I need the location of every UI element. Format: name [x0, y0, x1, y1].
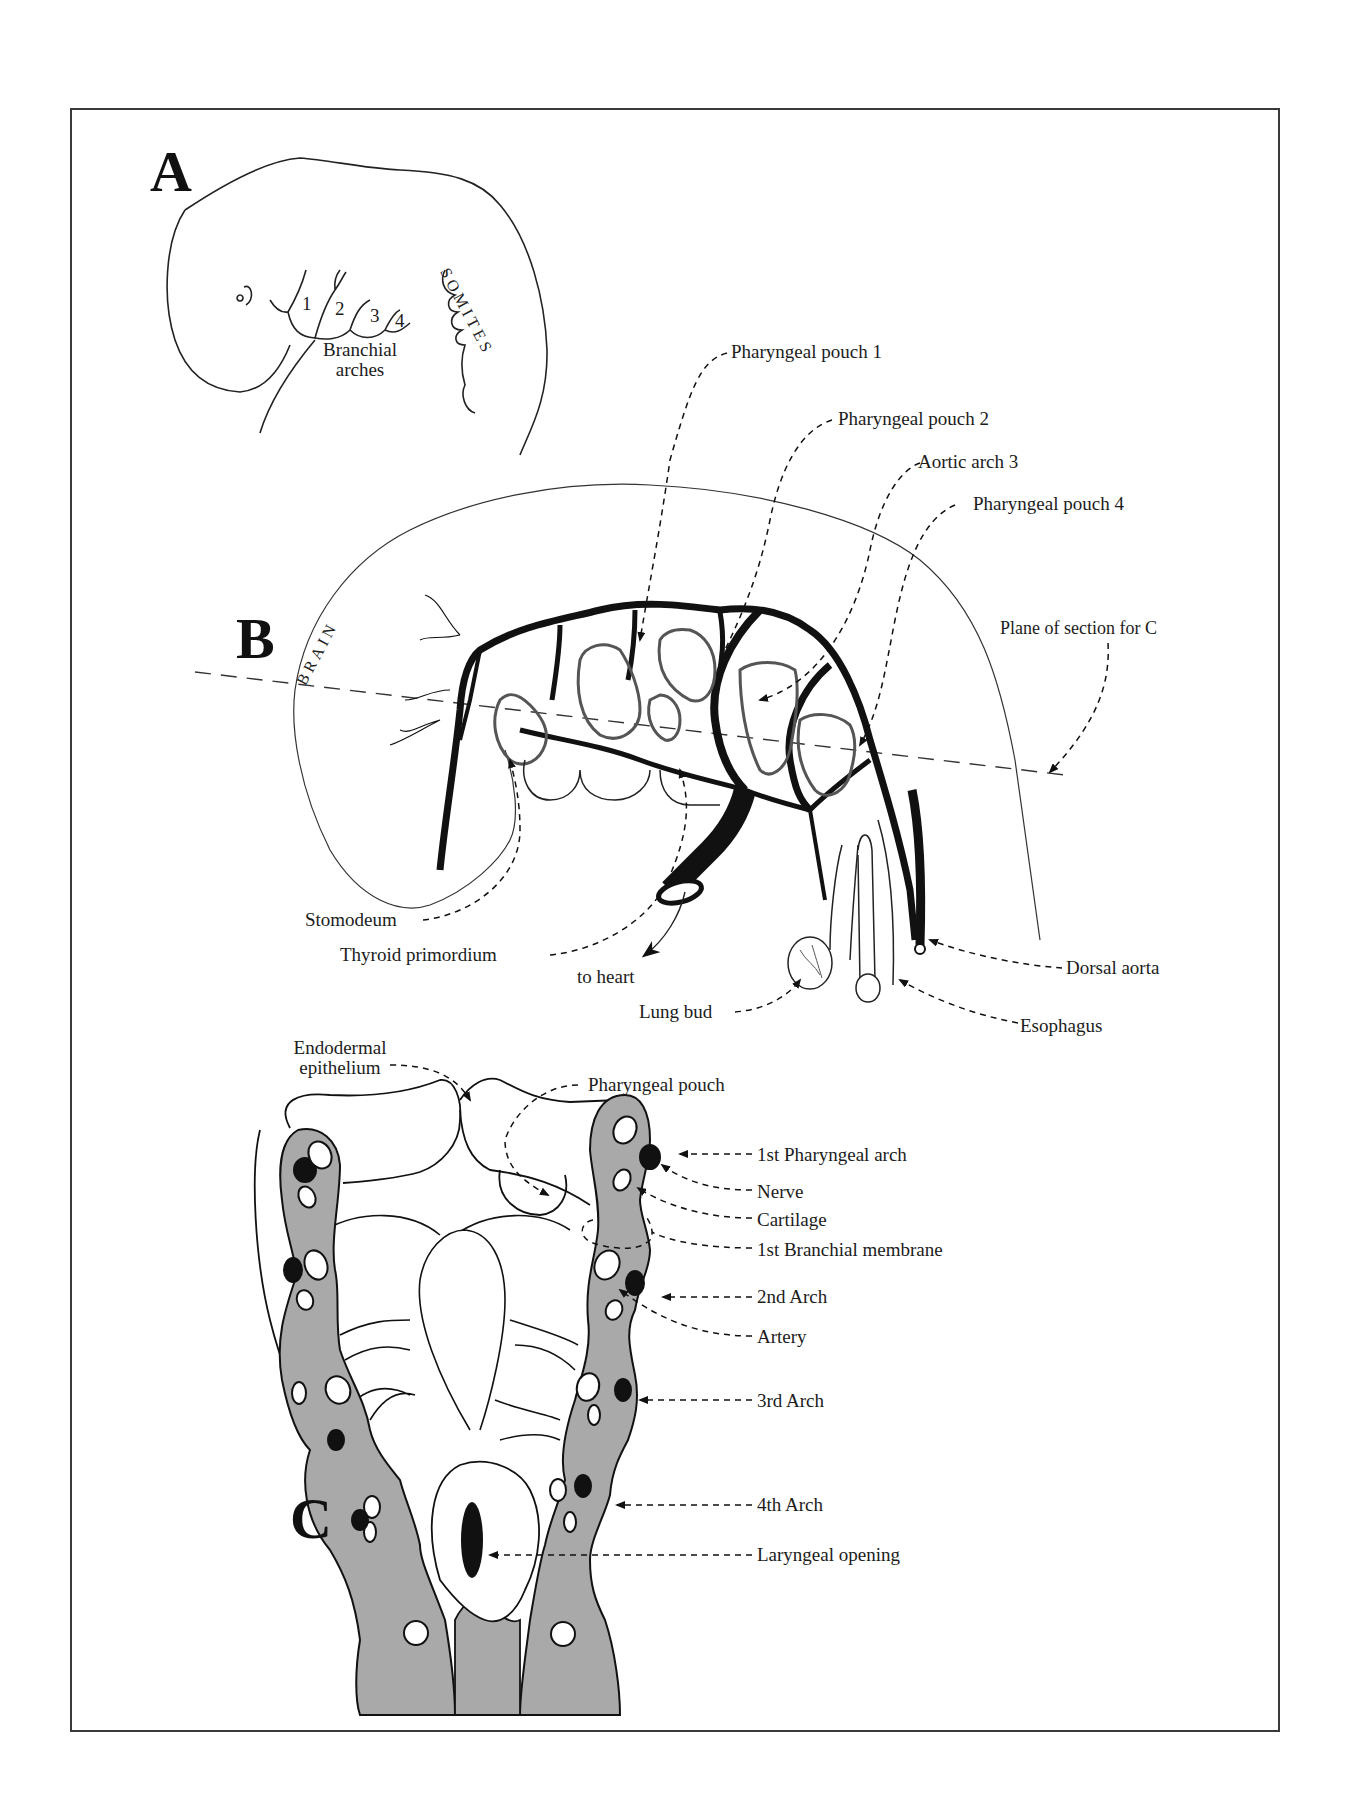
pharyngeal-pouch-4-label: Pharyngeal pouch 4	[973, 494, 1124, 514]
dorsal-aorta-label: Dorsal aorta	[1066, 958, 1159, 978]
embryo-diagram	[0, 0, 1349, 1818]
cartilage-label: Cartilage	[757, 1210, 827, 1230]
third-arch-label: 3rd Arch	[757, 1391, 824, 1411]
branchial-arches-label: Branchial arches	[305, 340, 415, 380]
fourth-arch-label: 4th Arch	[757, 1495, 823, 1515]
laryngeal-opening-label: Laryngeal opening	[757, 1545, 900, 1565]
panel-a-letter: A	[150, 143, 192, 201]
panel-b-letter: B	[236, 610, 275, 668]
panel-a-embryo	[167, 158, 547, 455]
artery-label: Artery	[757, 1327, 807, 1347]
panel-c-letter: C	[290, 1490, 332, 1548]
thyroid-primordium-label: Thyroid primordium	[340, 945, 497, 965]
first-pharyngeal-arch-label: 1st Pharyngeal arch	[757, 1145, 907, 1165]
aortic-arch-3-label: Aortic arch 3	[918, 452, 1018, 472]
lung-bud-label: Lung bud	[639, 1002, 712, 1022]
second-arch-label: 2nd Arch	[757, 1287, 827, 1307]
arch-number-1: 1	[302, 294, 312, 314]
arch-number-4: 4	[395, 311, 405, 331]
pharyngeal-pouch-label: Pharyngeal pouch	[588, 1075, 725, 1095]
endodermal-epithelium-label: Endodermal epithelium	[280, 1038, 400, 1078]
arch-number-3: 3	[370, 306, 380, 326]
arch-number-2: 2	[335, 299, 345, 319]
pharyngeal-pouch-1-label: Pharyngeal pouch 1	[731, 342, 882, 362]
pharyngeal-pouch-2-label: Pharyngeal pouch 2	[838, 409, 989, 429]
panel-c-section	[255, 1065, 752, 1715]
nerve-label: Nerve	[757, 1182, 803, 1202]
plane-of-section-label: Plane of section for C	[1000, 618, 1157, 638]
stomodeum-label: Stomodeum	[305, 910, 397, 930]
first-branchial-membrane-label: 1st Branchial membrane	[757, 1240, 943, 1260]
to-heart-label: to heart	[577, 967, 635, 987]
esophagus-label: Esophagus	[1020, 1016, 1102, 1036]
